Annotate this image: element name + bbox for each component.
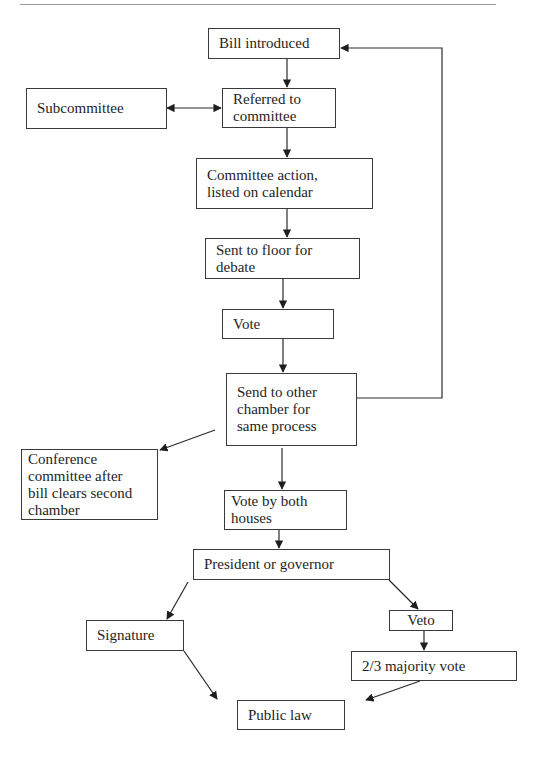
- arrow-signature-to-law: [184, 651, 217, 699]
- node-signature: Signature: [86, 620, 184, 651]
- node-president-or-governor: President or governor: [193, 549, 390, 580]
- node-veto: Veto: [389, 610, 453, 631]
- node-committee-action: Committee action, listed on calendar: [196, 158, 373, 209]
- node-send-to-other-chamber: Send to other chamber for same process: [226, 373, 357, 446]
- arrow-send-to-bill: [341, 48, 442, 398]
- arrow-president-to-veto: [389, 580, 418, 609]
- arrow-president-to-signature: [167, 582, 188, 619]
- arrow-send-to-conference: [160, 430, 215, 450]
- node-vote: Vote: [222, 309, 334, 339]
- node-vote-by-both-houses: Vote by both houses: [224, 490, 347, 530]
- node-public-law: Public law: [237, 700, 345, 730]
- node-referred-to-committee: Referred to committee: [222, 88, 336, 128]
- node-sent-to-floor: Sent to floor for debate: [205, 238, 360, 279]
- node-conference-committee: Conference committee after bill clears s…: [21, 449, 158, 520]
- node-subcommittee: Subcommittee: [26, 88, 167, 129]
- node-two-thirds-majority-vote: 2/3 majority vote: [351, 651, 517, 681]
- arrow-majority-to-law: [366, 681, 420, 700]
- node-bill-introduced: Bill introduced: [208, 28, 340, 59]
